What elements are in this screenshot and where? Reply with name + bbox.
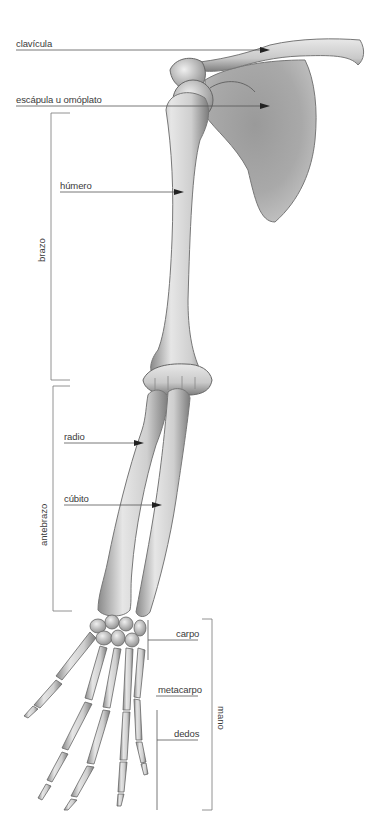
label-carpo: carpo [176, 628, 199, 639]
label-escapula: escápula u omóplato [16, 94, 102, 105]
label-clavicula: clavícula [16, 38, 52, 49]
label-metacarpo: metacarpo [158, 684, 202, 695]
label-radio: radio [64, 431, 85, 442]
group-label-mano: mano [216, 706, 227, 730]
label-cubito: cúbito [64, 493, 89, 504]
label-humero: húmero [60, 180, 92, 191]
humerus-bone [151, 93, 209, 376]
carpal-bones [90, 615, 146, 647]
arm-skeleton-illustration [0, 0, 370, 823]
group-label-antebrazo: antebrazo [38, 504, 49, 546]
label-dedos: dedos [174, 728, 199, 739]
mano-bracket [202, 619, 212, 810]
scapula-bone [205, 60, 316, 222]
group-label-brazo: brazo [36, 238, 47, 262]
finger-bones [24, 632, 148, 810]
brazo-bracket [51, 113, 70, 380]
